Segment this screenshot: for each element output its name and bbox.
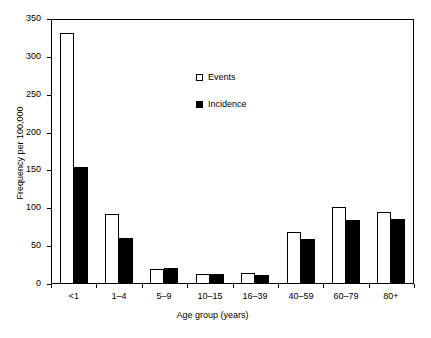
bar-events bbox=[105, 214, 119, 284]
bar-chart-figure: Frequency per 100,000 Age group (years) … bbox=[0, 0, 431, 338]
x-tick-mark bbox=[414, 284, 415, 288]
y-tick-label: 50 bbox=[13, 241, 41, 250]
bar-incidence bbox=[210, 274, 224, 284]
bar-events bbox=[60, 33, 74, 284]
filled-square-icon bbox=[196, 101, 203, 108]
bar-incidence bbox=[74, 167, 88, 284]
y-tick-label: 100 bbox=[13, 203, 41, 212]
bar-events bbox=[332, 207, 346, 284]
bar-incidence bbox=[391, 219, 405, 284]
x-tick-label: 80+ bbox=[361, 291, 421, 301]
x-tick-mark bbox=[187, 284, 188, 288]
legend-label: Events bbox=[208, 72, 236, 83]
open-square-icon bbox=[196, 74, 203, 81]
bar-events bbox=[287, 232, 301, 284]
y-tick-label: 150 bbox=[13, 165, 41, 174]
bar-incidence bbox=[301, 239, 315, 284]
bar-events bbox=[196, 274, 210, 284]
bar-incidence bbox=[346, 220, 360, 284]
bar-events bbox=[241, 273, 255, 284]
x-tick-mark bbox=[142, 284, 143, 288]
y-tick-label: 350 bbox=[13, 14, 41, 23]
x-tick-mark bbox=[233, 284, 234, 288]
bar-incidence bbox=[119, 238, 133, 284]
bar-incidence bbox=[164, 268, 178, 284]
bar-events bbox=[377, 212, 391, 284]
x-tick-mark bbox=[51, 284, 52, 288]
x-tick-mark bbox=[96, 284, 97, 288]
bar-incidence bbox=[255, 275, 269, 284]
y-tick-label: 250 bbox=[13, 90, 41, 99]
y-tick-label: 300 bbox=[13, 52, 41, 61]
y-tick-label: 200 bbox=[13, 128, 41, 137]
x-tick-mark bbox=[369, 284, 370, 288]
bar-events bbox=[150, 269, 164, 284]
x-tick-mark bbox=[323, 284, 324, 288]
x-axis-title: Age group (years) bbox=[40, 310, 385, 320]
y-axis-title: Frequency per 100,000 bbox=[15, 53, 25, 253]
y-tick-label: 0 bbox=[13, 279, 41, 288]
legend-label: Incidence bbox=[208, 99, 247, 110]
x-tick-mark bbox=[278, 284, 279, 288]
